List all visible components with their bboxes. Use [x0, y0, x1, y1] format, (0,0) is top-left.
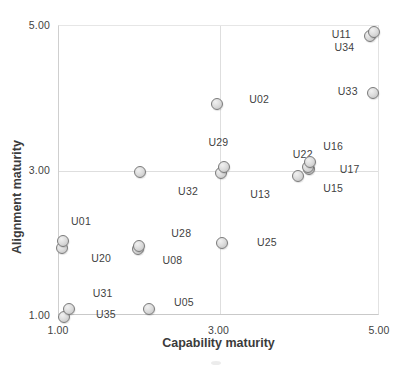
data-point-label: U29: [208, 136, 228, 148]
x-axis-tick-label: 3.00: [208, 324, 229, 336]
data-point-label: U20: [91, 252, 111, 264]
data-point-label: U01: [71, 215, 91, 227]
data-point-label: U34: [334, 41, 354, 53]
data-point-label: U32: [178, 185, 198, 197]
y-axis-tick-label: 1.00: [0, 309, 50, 321]
data-point-label: U16: [323, 140, 343, 152]
data-point-marker: [216, 237, 228, 249]
data-point-label: U25: [257, 236, 277, 248]
data-point-marker: [211, 98, 223, 110]
data-point-label: U15: [323, 182, 343, 194]
y-axis-tick-label: 3.00: [0, 164, 50, 176]
data-point-label: U17: [340, 163, 360, 175]
plot-area: U20U01U35U31U05U08U28U32U02U13U29U25U17U…: [58, 25, 379, 315]
data-point-label: U02: [249, 93, 269, 105]
data-point-label: U08: [163, 254, 183, 266]
data-point-marker: [133, 240, 145, 252]
x-axis-title: Capability maturity: [58, 336, 379, 350]
data-point-marker: [367, 87, 379, 99]
data-point-marker: [63, 303, 75, 315]
data-point-label: U28: [171, 227, 191, 239]
data-point-marker: [218, 161, 230, 173]
data-point-label: U13: [250, 188, 270, 200]
data-point-label: U05: [174, 296, 194, 308]
scan-artifact: [211, 361, 221, 365]
data-point-marker: [292, 170, 304, 182]
data-point-marker: [304, 156, 316, 168]
data-point-label: U31: [93, 287, 113, 299]
data-point-marker: [134, 166, 146, 178]
x-axis-tick-label: 5.00: [368, 324, 389, 336]
data-point-label: U33: [338, 85, 358, 97]
data-point-label: U11: [332, 28, 351, 40]
data-point-marker: [57, 235, 69, 247]
data-point-marker: [143, 303, 155, 315]
scatter-chart: Alignment maturity U20U01U35U31U05U08U28…: [0, 0, 408, 368]
data-point-label: U35: [96, 308, 116, 320]
x-axis-tick-label: 1.00: [47, 324, 68, 336]
data-point-marker: [368, 26, 380, 38]
y-axis-title: Alignment maturity: [10, 140, 24, 254]
y-axis-tick-label: 5.00: [0, 19, 50, 31]
